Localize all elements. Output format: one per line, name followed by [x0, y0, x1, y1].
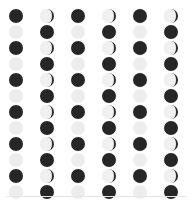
new-moon-icon [9, 9, 23, 23]
phase-cell[interactable] [161, 56, 185, 72]
phase-cell[interactable] [37, 136, 61, 152]
phase-cell[interactable] [99, 40, 123, 56]
phase-cell[interactable] [6, 184, 30, 200]
phase-cell[interactable] [99, 104, 123, 120]
phase-cell[interactable] [161, 72, 185, 88]
phase-cell[interactable] [68, 152, 92, 168]
phase-cell[interactable] [68, 8, 92, 24]
phase-cell[interactable] [6, 40, 30, 56]
phase-cell[interactable] [161, 152, 185, 168]
phase-cell[interactable] [68, 120, 92, 136]
phase-cell[interactable] [161, 8, 185, 24]
full-moon-icon [9, 153, 23, 167]
full-moon-icon [9, 89, 23, 103]
phase-cell[interactable] [130, 56, 154, 72]
phase-cell[interactable] [99, 88, 123, 104]
crescent-moon-icon [164, 9, 178, 23]
phase-cell[interactable] [6, 56, 30, 72]
phase-cell[interactable] [161, 168, 185, 184]
new-moon-icon [71, 137, 85, 151]
phase-cell[interactable] [37, 104, 61, 120]
new-moon-icon [71, 73, 85, 87]
phase-cell[interactable] [130, 104, 154, 120]
phase-cell[interactable] [68, 40, 92, 56]
full-moon-icon [133, 121, 147, 135]
phase-cell[interactable] [6, 104, 30, 120]
full-moon-icon [71, 121, 85, 135]
phase-cell[interactable] [99, 184, 123, 200]
phase-cell[interactable] [99, 136, 123, 152]
phase-cell[interactable] [99, 152, 123, 168]
phase-cell[interactable] [68, 24, 92, 40]
crescent-moon-icon [40, 9, 54, 23]
moon-phase-grid [0, 0, 193, 204]
phase-cell[interactable] [130, 184, 154, 200]
phase-cell[interactable] [37, 88, 61, 104]
crescent-moon-icon [102, 137, 116, 151]
phase-cell[interactable] [37, 152, 61, 168]
phase-cell[interactable] [37, 72, 61, 88]
full-moon-icon [9, 121, 23, 135]
full-moon-icon [133, 25, 147, 39]
new-moon-icon [133, 137, 147, 151]
phase-cell[interactable] [6, 136, 30, 152]
phase-cell[interactable] [68, 104, 92, 120]
phase-cell[interactable] [161, 184, 185, 200]
new-moon-icon [102, 25, 116, 39]
full-moon-icon [9, 57, 23, 71]
phase-cell[interactable] [130, 72, 154, 88]
new-moon-icon [102, 57, 116, 71]
phase-cell[interactable] [99, 168, 123, 184]
phase-cell[interactable] [130, 120, 154, 136]
phase-cell[interactable] [68, 88, 92, 104]
crescent-moon-icon [164, 137, 178, 151]
phase-cell[interactable] [161, 24, 185, 40]
phase-cell[interactable] [68, 56, 92, 72]
phase-cell[interactable] [99, 56, 123, 72]
phase-cell[interactable] [6, 88, 30, 104]
phase-cell[interactable] [6, 8, 30, 24]
phase-cell[interactable] [68, 168, 92, 184]
phase-cell[interactable] [161, 136, 185, 152]
phase-cell[interactable] [37, 120, 61, 136]
phase-cell[interactable] [68, 136, 92, 152]
crescent-moon-icon [102, 41, 116, 55]
phase-cell[interactable] [6, 152, 30, 168]
phase-cell[interactable] [6, 168, 30, 184]
new-moon-icon [164, 153, 178, 167]
phase-cell[interactable] [161, 40, 185, 56]
phase-cell[interactable] [37, 168, 61, 184]
phase-cell[interactable] [99, 24, 123, 40]
phase-cell[interactable] [37, 40, 61, 56]
phase-cell[interactable] [130, 136, 154, 152]
phase-cell[interactable] [37, 24, 61, 40]
phase-cell[interactable] [6, 72, 30, 88]
phase-cell[interactable] [6, 24, 30, 40]
phase-column-4 [99, 0, 123, 204]
phase-cell[interactable] [37, 184, 61, 200]
new-moon-icon [40, 153, 54, 167]
phase-cell[interactable] [37, 56, 61, 72]
phase-cell[interactable] [99, 72, 123, 88]
phase-cell[interactable] [68, 72, 92, 88]
phase-cell[interactable] [6, 120, 30, 136]
phase-cell[interactable] [99, 8, 123, 24]
phase-cell[interactable] [161, 120, 185, 136]
phase-cell[interactable] [130, 168, 154, 184]
phase-cell[interactable] [161, 104, 185, 120]
full-moon-icon [133, 57, 147, 71]
phase-cell[interactable] [130, 88, 154, 104]
phase-cell[interactable] [99, 120, 123, 136]
phase-cell[interactable] [130, 24, 154, 40]
phase-cell[interactable] [37, 8, 61, 24]
new-moon-icon [40, 25, 54, 39]
new-moon-icon [71, 41, 85, 55]
phase-cell[interactable] [130, 8, 154, 24]
crescent-moon-icon [164, 105, 178, 119]
full-moon-icon [9, 25, 23, 39]
phase-column-3 [68, 0, 92, 204]
phase-cell[interactable] [130, 152, 154, 168]
phase-cell[interactable] [68, 184, 92, 200]
phase-cell[interactable] [130, 40, 154, 56]
phase-cell[interactable] [161, 88, 185, 104]
